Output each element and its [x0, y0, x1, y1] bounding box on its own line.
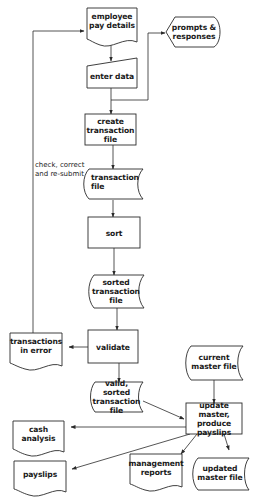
label-updated-master-file: updated master file	[195, 461, 245, 485]
label-line: valid, sorted	[91, 379, 142, 397]
label-line: master file	[197, 473, 242, 482]
label-line: create	[97, 117, 124, 126]
label-line: payslips	[197, 428, 231, 437]
label-valid-sorted-transaction-file: valid, sorted transaction file	[91, 383, 142, 411]
label-payslips: payslips	[14, 463, 66, 485]
label-line: sort	[106, 229, 123, 238]
label-line: produce	[197, 419, 231, 428]
label-transactions-in-error: transactions in error	[10, 335, 62, 357]
label-line: transaction	[87, 126, 135, 135]
label-line: validate	[96, 343, 130, 352]
label-line: file	[91, 182, 104, 191]
label-line: cash	[29, 425, 48, 434]
label-line: transaction	[93, 397, 141, 406]
label-update-master: update master, produce payslips	[186, 404, 242, 434]
label-employee-pay-details: employee pay details	[87, 9, 137, 33]
label-line: file	[109, 296, 122, 305]
label-line: payslips	[23, 470, 57, 479]
label-line: file	[104, 135, 117, 144]
label-line: transaction	[91, 173, 139, 182]
label-line: management	[128, 459, 183, 468]
edge-valid-sorted-to-update	[143, 401, 184, 419]
label-line: reports	[141, 468, 172, 477]
label-line: sorted	[102, 278, 129, 287]
label-line: transactions	[10, 337, 62, 346]
label-sorted-transaction-file: sorted transaction file	[90, 277, 142, 306]
label-line: employee	[92, 12, 133, 21]
label-line: prompts &	[172, 23, 216, 32]
label-prompts-responses: prompts & responses	[170, 19, 218, 45]
label-line: responses	[173, 32, 216, 41]
label-line: update master,	[186, 401, 242, 419]
label-line: current	[199, 353, 230, 362]
edge-update-to-management-reports	[181, 434, 197, 454]
label-cash-analysis: cash analysis	[13, 423, 64, 445]
label-transaction-file: transaction file	[91, 173, 141, 195]
label-line: file	[110, 406, 123, 415]
label-line: analysis	[21, 434, 55, 443]
label-line: enter data	[90, 72, 134, 81]
label-validate: validate	[88, 331, 138, 363]
label-current-master-file: current master file	[188, 350, 240, 374]
label-line: updated	[203, 464, 238, 473]
label-line: in error	[20, 346, 51, 355]
label-management-reports: management reports	[130, 456, 182, 480]
note-line: check, correct	[35, 161, 95, 170]
label-line: master file	[191, 362, 236, 371]
feedback-note: check, correct and re-submit	[35, 161, 95, 178]
note-line: and re-submit	[35, 170, 95, 179]
label-line: pay details	[89, 21, 135, 30]
label-line: transaction	[92, 287, 140, 296]
label-sort: sort	[88, 218, 140, 248]
label-create-transaction-file: create transaction file	[85, 115, 136, 145]
label-enter-data: enter data	[87, 66, 137, 86]
edge-feedback-resubmit	[33, 31, 84, 333]
